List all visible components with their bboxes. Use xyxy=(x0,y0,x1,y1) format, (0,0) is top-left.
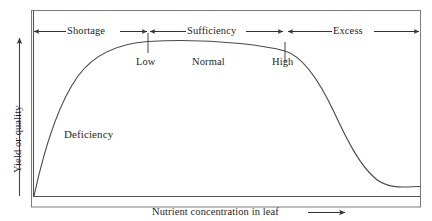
zone-label-sufficiency: Sufficiency xyxy=(187,26,236,37)
outer-frame xyxy=(32,11,421,208)
x-axis-label: Nutrient concentration in leaf xyxy=(152,207,279,218)
response-curve xyxy=(34,40,420,196)
tick-label-normal: Normal xyxy=(192,57,225,68)
zone-label-excess: Excess xyxy=(333,26,363,37)
tick-label-low: Low xyxy=(136,57,156,68)
zone-label-shortage: Shortage xyxy=(67,26,105,37)
plot-axes xyxy=(34,11,421,197)
tick-label-high: High xyxy=(272,57,293,68)
nutrient-response-figure: Shortage Sufficiency Excess Low Normal H… xyxy=(0,0,432,221)
y-axis-label: Yield or quality xyxy=(13,105,24,173)
annotation-deficiency: Deficiency xyxy=(64,129,113,140)
